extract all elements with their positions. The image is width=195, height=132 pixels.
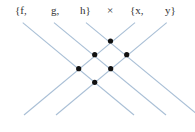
line-h	[86, 23, 195, 115]
intersection-dot	[76, 66, 81, 71]
intersection-dot	[108, 38, 113, 43]
intersection-dot	[108, 66, 113, 71]
set-labels: {f,g,h}×{x,y}	[15, 4, 176, 16]
set-label: y}	[165, 4, 176, 16]
intersection-dot	[124, 52, 129, 57]
set-label: g,	[51, 4, 60, 16]
set-label: {f,	[15, 4, 27, 16]
set-label: ×	[107, 4, 113, 16]
cartesian-product-diagram: {f,g,h}×{x,y}	[0, 0, 195, 132]
intersection-dot	[92, 80, 97, 85]
set-label: {x,	[130, 4, 144, 16]
set-label: h}	[80, 4, 91, 16]
intersection-dot	[92, 52, 97, 57]
